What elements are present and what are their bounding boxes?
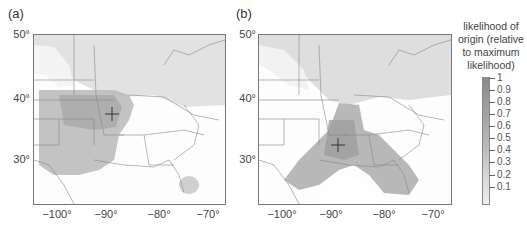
panel-b-label: (b) bbox=[236, 6, 252, 21]
colorbar-tick bbox=[489, 138, 495, 139]
colorbar-label: 0.7 bbox=[497, 109, 511, 119]
ytick-40-b: 40° bbox=[228, 92, 256, 104]
xtick-90-a: −90° bbox=[86, 208, 126, 220]
xtick-80-a: −80° bbox=[139, 208, 179, 220]
xtick-100-a: −100° bbox=[37, 208, 77, 220]
xtick-90-b: −90° bbox=[311, 208, 351, 220]
colorbar-tick bbox=[489, 162, 495, 163]
colorbar-tick bbox=[489, 78, 495, 79]
colorbar-label: 0.8 bbox=[497, 97, 511, 107]
colorbar-tick bbox=[489, 126, 495, 127]
xtick-100-b: −100° bbox=[262, 208, 302, 220]
colorbar-tick bbox=[489, 90, 495, 91]
ytick-30-b: 30° bbox=[228, 153, 256, 165]
panel-a-label: (a) bbox=[8, 6, 24, 21]
colorbar-label: 0.6 bbox=[497, 121, 511, 131]
legend-title: likelihood of origin (relative to maximu… bbox=[455, 20, 527, 72]
ytick-30-a: 30° bbox=[2, 153, 30, 165]
colorbar-label: 0.9 bbox=[497, 85, 511, 95]
colorbar-tick bbox=[489, 102, 495, 103]
legend-title-line-4: likelihood) bbox=[455, 59, 527, 72]
xtick-70-b: −70° bbox=[413, 208, 453, 220]
colorbar bbox=[482, 77, 490, 205]
map-panel-a bbox=[33, 34, 226, 205]
colorbar-label: 0.2 bbox=[497, 170, 511, 180]
colorbar-tick bbox=[489, 175, 495, 176]
ytick-50-b: 50° bbox=[228, 28, 256, 40]
colorbar-label: 0.4 bbox=[497, 145, 511, 155]
colorbar-tick bbox=[489, 150, 495, 151]
map-panel-b bbox=[258, 34, 452, 205]
ytick-40-a: 40° bbox=[2, 92, 30, 104]
colorbar-label: 0.3 bbox=[497, 157, 511, 167]
xtick-70-a: −70° bbox=[188, 208, 228, 220]
legend-title-line-1: likelihood of bbox=[455, 20, 527, 33]
colorbar-label: 1 bbox=[497, 73, 503, 83]
colorbar-tick bbox=[489, 114, 495, 115]
ytick-50-a: 50° bbox=[2, 28, 30, 40]
colorbar-tick bbox=[489, 187, 495, 188]
map-b-graphic bbox=[259, 35, 451, 204]
legend-title-line-2: origin (relative bbox=[455, 33, 527, 46]
map-a-graphic bbox=[34, 35, 225, 204]
legend-title-line-3: to maximum bbox=[455, 46, 527, 59]
colorbar-label: 0.5 bbox=[497, 133, 511, 143]
colorbar-label: 0.1 bbox=[497, 182, 511, 192]
xtick-80-b: −80° bbox=[364, 208, 404, 220]
